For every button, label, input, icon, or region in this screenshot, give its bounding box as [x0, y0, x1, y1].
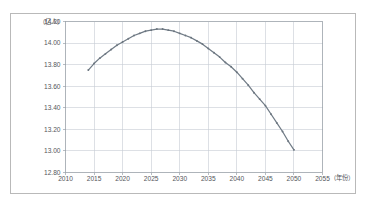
series-data-point	[247, 84, 249, 86]
series-data-point	[253, 92, 255, 94]
y-axis-unit-label: （亿人）	[39, 17, 63, 26]
x-axis-unit-label: （年份）	[330, 173, 354, 182]
series-data-point	[276, 122, 278, 124]
series-data-point	[236, 71, 238, 73]
x-axis-tick-labels: 2010201520202025203020352040204520502055	[58, 175, 330, 182]
plot-area-border	[66, 22, 323, 173]
series-data-point	[219, 56, 221, 58]
series-data-point	[190, 37, 192, 39]
series-data-point	[282, 131, 284, 133]
series-data-point	[156, 28, 158, 30]
series-data-point	[202, 43, 204, 45]
series-data-point	[105, 53, 107, 55]
series-data-point	[133, 35, 135, 37]
series-data-point	[293, 149, 295, 151]
x-tick-label: 2045	[258, 175, 273, 182]
x-tick-label: 2010	[58, 175, 73, 182]
series-data-point	[196, 40, 198, 42]
series-data-point	[110, 49, 112, 51]
x-tick-label: 2040	[229, 175, 244, 182]
x-tick-label: 2030	[172, 175, 187, 182]
grid-lines	[66, 22, 323, 173]
x-tick-label: 2025	[144, 175, 159, 182]
series-data-point	[259, 98, 261, 100]
series-data-point	[230, 66, 232, 68]
series-data-point	[270, 113, 272, 115]
y-tick-label: 13.40	[44, 104, 61, 111]
data-series-line	[87, 28, 294, 151]
plot-border-rect	[66, 22, 323, 173]
population-projection-chart: 12.8013.0013.2013.4013.6013.8014.0014.20…	[0, 0, 369, 201]
y-tick-label: 13.00	[44, 147, 61, 154]
series-data-point	[122, 41, 124, 43]
series-data-point	[287, 140, 289, 142]
series-data-point	[99, 57, 101, 59]
y-tick-label: 13.60	[44, 83, 61, 90]
axis-tick-marks	[63, 22, 323, 176]
y-tick-label: 13.80	[44, 61, 61, 68]
series-data-point	[207, 48, 209, 50]
series-data-point	[145, 30, 147, 32]
series-data-point	[127, 38, 129, 40]
series-data-point	[224, 62, 226, 64]
series-data-point	[179, 32, 181, 34]
x-tick-label: 2050	[287, 175, 302, 182]
series-data-point	[173, 30, 175, 32]
x-tick-label: 2020	[115, 175, 130, 182]
series-data-point	[162, 28, 164, 30]
series-polyline	[88, 29, 294, 150]
x-tick-label: 2055	[315, 175, 330, 182]
series-data-point	[139, 32, 141, 34]
series-data-point	[150, 29, 152, 31]
chart-plot-svg: 12.8013.0013.2013.4013.6013.8014.0014.20…	[0, 0, 369, 201]
x-tick-label: 2035	[201, 175, 216, 182]
y-tick-label: 13.20	[44, 126, 61, 133]
y-axis-tick-labels: 12.8013.0013.2013.4013.6013.8014.0014.20	[44, 18, 61, 176]
x-tick-label: 2015	[87, 175, 102, 182]
series-data-point	[264, 105, 266, 107]
series-data-point	[93, 63, 95, 65]
series-data-point	[213, 52, 215, 54]
series-data-point	[116, 44, 118, 46]
y-tick-label: 14.00	[44, 39, 61, 46]
series-data-point	[242, 78, 244, 80]
series-data-point	[167, 29, 169, 31]
series-data-point	[87, 69, 89, 71]
series-data-point	[184, 35, 186, 37]
